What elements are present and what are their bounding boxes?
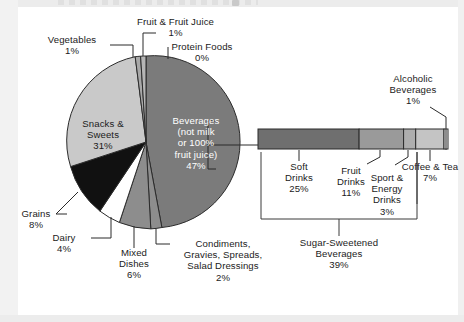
bar-segment-soft-drinks[interactable]	[258, 129, 359, 149]
bar-label-soft-drinks: SoftDrinks25%	[270, 161, 328, 195]
figure-canvas: Beverages(not milkor 100%fruit juice)47%…	[18, 7, 458, 315]
pie-label-vegetables: Vegetables1%	[32, 34, 112, 56]
pie-label-protein-foods: Protein Foods0%	[158, 41, 246, 63]
page-top-edge-artifact	[0, 0, 464, 7]
page-left-margin	[0, 0, 18, 322]
scanned-page: Beverages(not milkor 100%fruit juice)47%…	[0, 0, 464, 322]
bar-segment-sport-energy-drinks[interactable]	[404, 129, 416, 149]
pie-label-mixed-dishes: MixedDishes6%	[101, 247, 167, 281]
pie-label-condiments: Condiments,Gravies, Spreads,Salad Dressi…	[168, 238, 278, 283]
bar-segment-fruit-drinks[interactable]	[359, 129, 404, 149]
pie-label-snacks-sweets: Snacks &Sweets31%	[67, 118, 139, 152]
bar-segment-coffee-tea[interactable]	[416, 129, 444, 149]
leader-dairy	[91, 217, 111, 238]
pie-label-fruit-juice: Fruit & Fruit Juice1%	[123, 16, 228, 38]
bar-label-sugar-sweetened-beverages: Sugar-SweetenedBeverages39%	[277, 237, 401, 271]
pie-label-grains: Grains8%	[8, 208, 64, 230]
beverage-breakdown-bar	[258, 129, 448, 149]
bar-label-alcoholic-beverages: AlcoholicBeverages1%	[373, 73, 453, 107]
cropped-header-glyph-artifact	[232, 0, 239, 6]
page-bottom-edge-artifact	[0, 315, 464, 322]
leader-fruit-drinks	[367, 150, 380, 164]
pie-label-dairy: Dairy4%	[39, 232, 89, 254]
leader-vegetables	[110, 45, 133, 57]
bar-label-coffee-tea: Coffee & Tea7%	[388, 161, 464, 183]
pie-label-beverages: Beverages(not milkor 100%fruit juice)47%	[159, 115, 233, 171]
cropped-header-text-artifact	[58, 0, 258, 5]
